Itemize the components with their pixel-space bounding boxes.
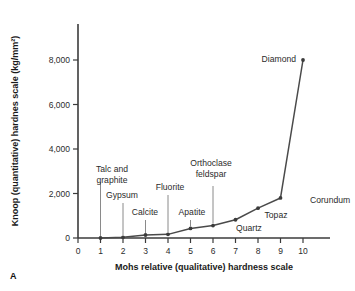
annotation-label: Topaz <box>265 210 288 220</box>
y-axis-title: Knoop (quantitative) hardnes scale (kg/m… <box>10 36 20 227</box>
mineral-annotations: Talc andgraphiteGypsumCalciteFluoriteApa… <box>96 54 350 233</box>
data-point <box>189 227 193 231</box>
data-point <box>99 236 103 240</box>
annotation-label: feldspar <box>196 169 227 179</box>
x-tick-label: 9 <box>278 246 283 256</box>
x-tick-label: 6 <box>211 246 216 256</box>
x-tick-label: 1 <box>98 246 103 256</box>
x-tick-label: 4 <box>166 246 171 256</box>
data-point <box>234 218 238 222</box>
data-point <box>211 224 215 228</box>
annotation-label: Calcite <box>132 207 158 217</box>
y-tick-label: 8,000 <box>49 55 71 65</box>
figure-panel: 02,0004,0006,0008,000 012345678910 Talc … <box>0 0 355 291</box>
knoop-vs-mohs-hardness-chart: 02,0004,0006,0008,000 012345678910 Talc … <box>0 0 355 291</box>
annotation-label: Fluorite <box>156 182 185 192</box>
data-point <box>256 206 260 210</box>
annotation-label: Diamond <box>262 54 297 64</box>
y-tick-label: 6,000 <box>49 100 71 110</box>
annotation-label: Quartz <box>236 223 262 233</box>
x-tick-label: 3 <box>143 246 148 256</box>
x-tick-label: 7 <box>233 246 238 256</box>
annotation-label: Corundum <box>310 195 350 205</box>
x-tick-label: 8 <box>256 246 261 256</box>
x-axis-title: Mohs relative (qualitative) hardness sca… <box>115 262 293 272</box>
x-tick-label: 2 <box>121 246 126 256</box>
annotation-label: Orthoclase <box>190 158 232 168</box>
x-tick-label: 0 <box>76 246 81 256</box>
y-tick-label: 0 <box>65 233 70 243</box>
y-tick-label: 4,000 <box>49 144 71 154</box>
x-tick-label: 10 <box>298 246 308 256</box>
y-tick-label: 2,000 <box>49 189 71 199</box>
x-axis-ticks: 012345678910 <box>76 238 308 256</box>
y-axis-ticks: 02,0004,0006,0008,000 <box>49 55 78 243</box>
panel-label: A <box>10 271 17 281</box>
x-tick-label: 5 <box>188 246 193 256</box>
annotation-label: Apatite <box>179 207 206 217</box>
data-point <box>279 196 283 200</box>
data-point <box>301 58 305 62</box>
annotation-label: Gypsum <box>106 190 138 200</box>
annotation-label: graphite <box>96 175 127 185</box>
data-point <box>121 235 125 239</box>
data-point <box>144 233 148 237</box>
data-point <box>166 232 170 236</box>
annotation-label: Talc and <box>96 164 128 174</box>
